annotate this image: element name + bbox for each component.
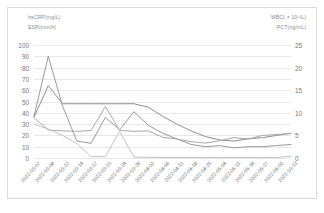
legend-label-pct: PCT(ng/mL) — [277, 24, 306, 30]
gridline — [34, 158, 291, 159]
series-line — [34, 106, 291, 143]
y-tick-right: 20 — [295, 64, 321, 71]
y-tick-right: 15 — [295, 87, 321, 94]
legend-label-esr: ESR(mm/h) — [28, 24, 56, 30]
legend-label-wbc: WBC( × 10⁹/L) — [271, 14, 306, 20]
y-tick-right: 0 — [295, 155, 321, 162]
series-lines — [34, 45, 291, 158]
plot-area — [34, 45, 291, 158]
y-tick-right: 10 — [295, 109, 321, 116]
y-tick-right: 25 — [295, 42, 321, 49]
series-line — [34, 56, 291, 148]
x-axis-labels: 2022-03-072022-03-082022-03-122022-03-14… — [34, 160, 291, 210]
y-tick-right: 5 — [295, 132, 321, 139]
chart-figure: hsCRP(mg/L) ESR(mm/h) WBC( × 10⁹/L) PCT(… — [0, 0, 324, 213]
legend-label-hscrp: hsCRP(mg/L) — [28, 14, 61, 20]
series-line — [34, 124, 291, 157]
